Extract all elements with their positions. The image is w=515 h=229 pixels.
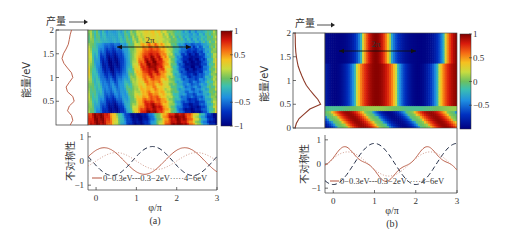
svg-text:1.5: 1.5 bbox=[43, 49, 55, 59]
svg-text:−1: −1 bbox=[311, 183, 321, 193]
svg-text:2: 2 bbox=[50, 25, 55, 35]
svg-text:1: 1 bbox=[80, 132, 85, 142]
svg-text:2: 2 bbox=[287, 28, 292, 38]
phi-label-b: φ/π bbox=[385, 205, 399, 216]
yield-arrowhead-icon-b bbox=[331, 23, 335, 28]
panel-a: 产量 0.511.52 能量/eV 2π 10.50−0.5−1 −101012… bbox=[20, 15, 251, 227]
svg-text:1: 1 bbox=[473, 29, 478, 39]
svg-text:−0.5: −0.5 bbox=[473, 100, 490, 110]
heatmap-b bbox=[325, 33, 458, 129]
svg-text:−0.5: −0.5 bbox=[234, 97, 251, 107]
caption-b: (b) bbox=[386, 218, 398, 229]
svg-text:0: 0 bbox=[317, 159, 322, 169]
svg-text:1: 1 bbox=[372, 196, 377, 206]
svg-text:0: 0 bbox=[287, 123, 292, 133]
legend-b: 0−0.3eV---0.3−2eV·····4−6eV bbox=[340, 176, 445, 186]
figure: 产量 0.511.52 能量/eV 2π 10.50−0.5−1 −101012… bbox=[0, 0, 515, 229]
yield-profile-box-b bbox=[293, 33, 325, 128]
asymmetry-plot-a: −1010123 0−0.3eV---0.3−2eV·····4−6eV 不对称… bbox=[64, 126, 220, 227]
panel-b: 产量 00.511.52 能量/eV 2π 10.50−0.5 −1010123… bbox=[258, 17, 490, 229]
two-pi-label-b: 2π bbox=[371, 39, 381, 49]
svg-text:3: 3 bbox=[455, 196, 460, 206]
svg-text:0: 0 bbox=[80, 156, 85, 166]
colorbar-ticks-a: 10.50−0.5−1 bbox=[230, 26, 251, 131]
caption-a: (a) bbox=[149, 215, 160, 227]
svg-text:−1: −1 bbox=[234, 121, 244, 131]
svg-text:2: 2 bbox=[174, 193, 179, 203]
yield-profile-box bbox=[56, 30, 88, 125]
svg-text:0: 0 bbox=[94, 193, 99, 203]
two-pi-label-a: 2π bbox=[145, 35, 155, 45]
svg-text:0.5: 0.5 bbox=[473, 53, 485, 63]
svg-text:1: 1 bbox=[317, 135, 322, 145]
svg-text:1: 1 bbox=[134, 193, 139, 203]
svg-text:1: 1 bbox=[234, 26, 239, 36]
svg-text:0: 0 bbox=[331, 196, 336, 206]
svg-text:0.5: 0.5 bbox=[280, 99, 292, 109]
yield-arrowhead-icon bbox=[84, 20, 88, 25]
energy-axis-label-a: 能量/eV bbox=[20, 62, 32, 99]
svg-text:0: 0 bbox=[234, 74, 239, 84]
svg-text:0: 0 bbox=[473, 77, 478, 87]
energy-axis-label-b: 能量/eV bbox=[258, 66, 270, 103]
asymmetry-label-a: 不对称性 bbox=[64, 141, 76, 181]
colorbar-ticks-b: 10.50−0.5 bbox=[469, 29, 490, 110]
yield-label-b: 产量 bbox=[295, 17, 315, 29]
svg-text:0.5: 0.5 bbox=[43, 96, 55, 106]
legend-a: 0−0.3eV---0.3−2eV·····4−6eV bbox=[103, 173, 208, 183]
phi-label-a: φ/π bbox=[148, 202, 162, 213]
svg-text:2: 2 bbox=[414, 196, 419, 206]
svg-text:0.5: 0.5 bbox=[234, 50, 246, 60]
asymmetry-label-b: 不对称性 bbox=[298, 144, 310, 184]
svg-text:1: 1 bbox=[287, 76, 292, 86]
asymmetry-plot-b: −1010123 0−0.3eV---0.3−2eV·····4−6eV 不对称… bbox=[298, 128, 460, 229]
svg-text:3: 3 bbox=[215, 193, 220, 203]
svg-text:1.5: 1.5 bbox=[280, 52, 292, 62]
svg-text:1: 1 bbox=[50, 73, 55, 83]
